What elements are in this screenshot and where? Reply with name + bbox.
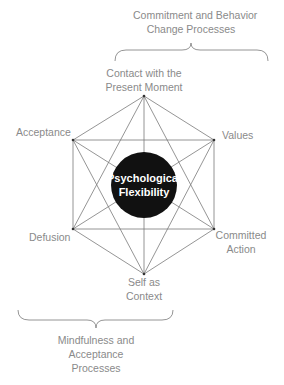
core-label-line2: Flexibility — [119, 185, 170, 199]
node-label-line: Self as — [114, 275, 174, 289]
node-acceptance: Acceptance — [16, 125, 71, 139]
group-label-line: Acceptance — [46, 347, 146, 361]
node-committed-action: Committed Action — [212, 228, 270, 256]
group-label-line: Change Processes — [133, 22, 249, 36]
bottom-brace — [18, 310, 173, 328]
node-contact-present-moment: Contact with the Present Moment — [94, 66, 194, 94]
node-label-line: Acceptance — [16, 125, 71, 139]
node-label-line: Values — [222, 128, 253, 142]
core-label-line1: Psychological — [107, 171, 181, 185]
node-values: Values — [222, 128, 253, 142]
node-label-line: Contact with the — [94, 66, 194, 80]
node-label-line: Committed — [212, 228, 270, 242]
group-label-line: Mindfulness and — [46, 333, 146, 347]
node-self-as-context: Self as Context — [114, 275, 174, 303]
psychological-flexibility-core: Psychological Flexibility — [111, 152, 177, 218]
group-label-commitment: Commitment and Behavior Change Processes — [133, 8, 249, 36]
top-brace — [115, 43, 268, 61]
group-label-mindfulness: Mindfulness and Acceptance Processes — [46, 333, 146, 375]
group-label-line: Commitment and Behavior — [133, 8, 249, 22]
node-label-line: Defusion — [29, 230, 70, 244]
node-defusion: Defusion — [29, 230, 70, 244]
node-label-line: Context — [114, 289, 174, 303]
node-label-line: Action — [212, 242, 270, 256]
group-label-line: Processes — [46, 361, 146, 375]
node-label-line: Present Moment — [94, 80, 194, 94]
